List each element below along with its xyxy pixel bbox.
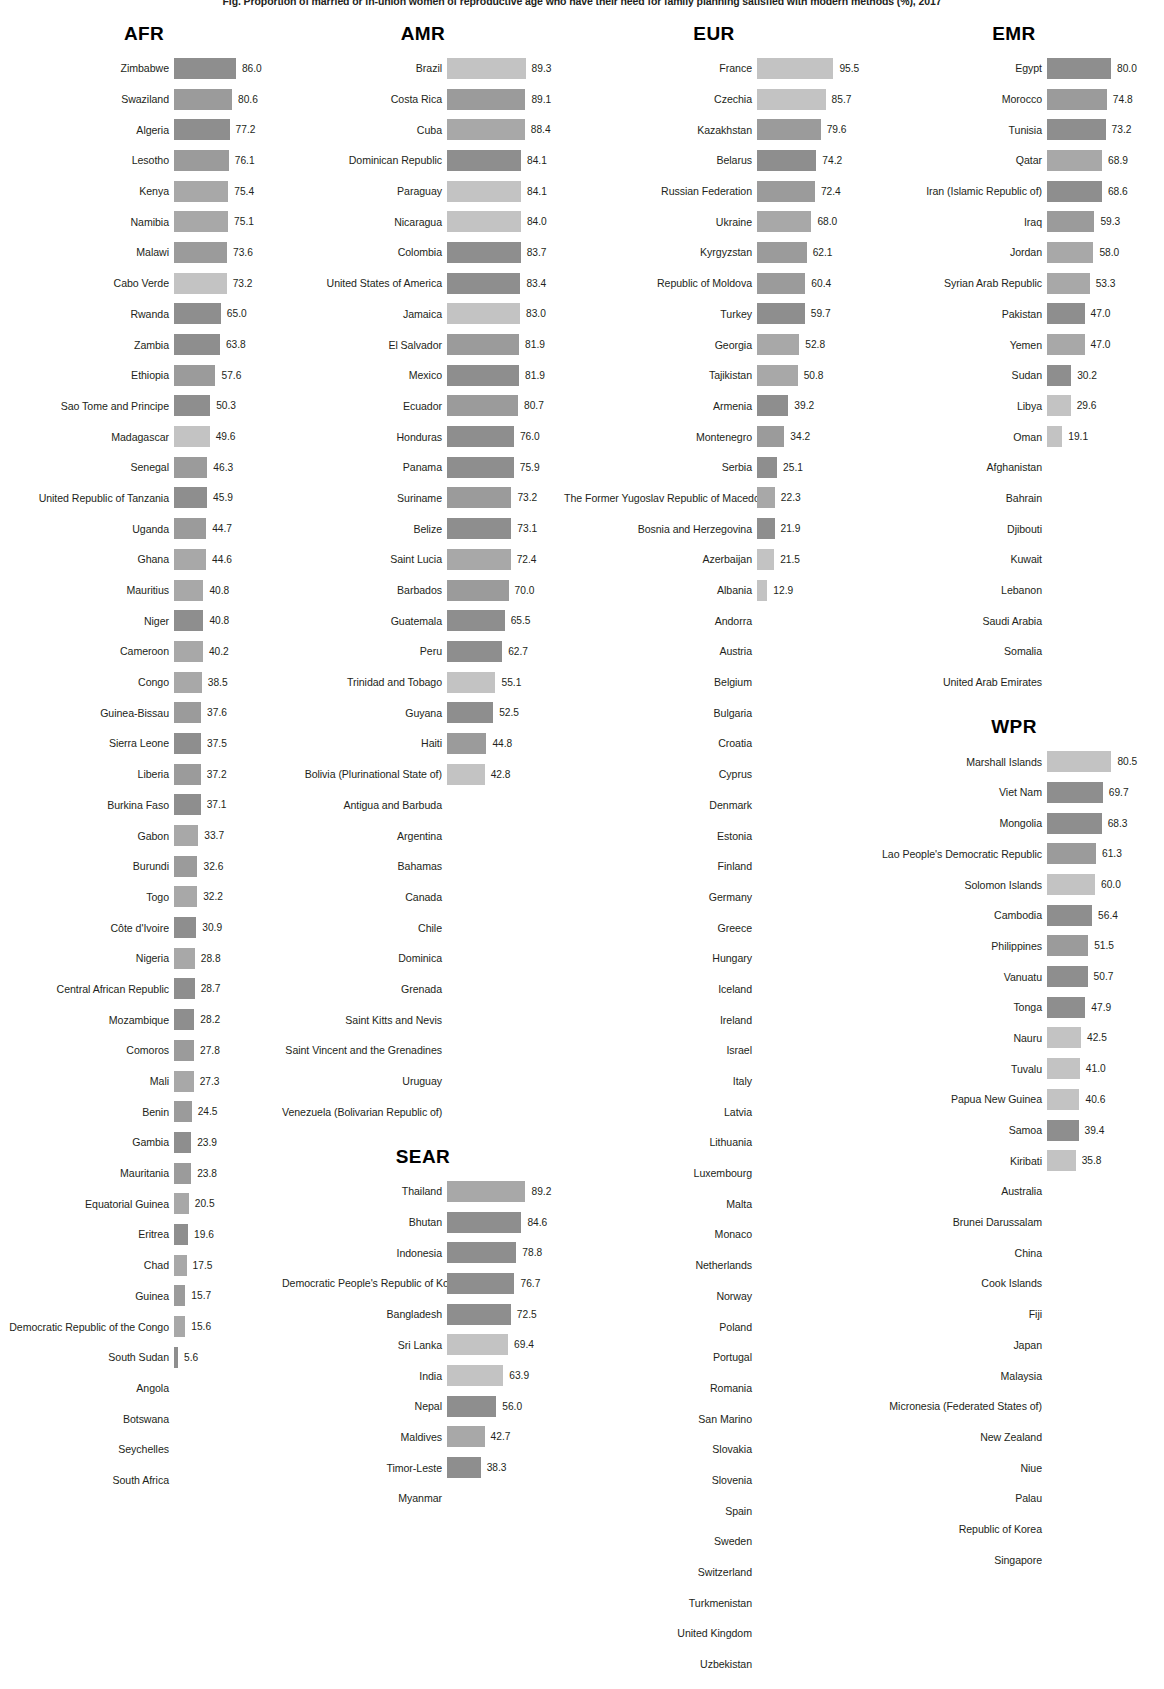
bar-value: 80.5 bbox=[1111, 756, 1137, 767]
bar-value: 76.7 bbox=[514, 1278, 540, 1289]
bar-container: 32.2 bbox=[174, 882, 282, 913]
bar-container: 37.2 bbox=[174, 759, 282, 790]
bar-row: Tonga47.9 bbox=[864, 992, 1164, 1023]
bar-row: Somalia bbox=[864, 636, 1164, 667]
bar bbox=[174, 1101, 192, 1122]
bar-list-afr: Zimbabwe86.0Swaziland80.6Algeria77.2Leso… bbox=[6, 53, 282, 1495]
bar bbox=[1047, 935, 1088, 956]
country-label: Dominican Republic bbox=[282, 154, 447, 166]
bar-row: Micronesia (Federated States of) bbox=[864, 1391, 1164, 1422]
bar bbox=[447, 1365, 503, 1386]
country-label: South Africa bbox=[6, 1474, 174, 1486]
bar-row: Gabon33.7 bbox=[6, 820, 282, 851]
bar-row: Lithuania bbox=[564, 1127, 864, 1158]
bar-container: 83.7 bbox=[447, 237, 564, 268]
bar-row: Indonesia78.8 bbox=[282, 1237, 564, 1268]
bar-row: Sweden bbox=[564, 1526, 864, 1557]
country-label: Serbia bbox=[564, 461, 757, 473]
country-label: Argentina bbox=[282, 830, 447, 842]
bar-list-amr: Brazil89.3Costa Rica89.1Cuba88.4Dominica… bbox=[282, 53, 564, 1127]
bar bbox=[1047, 365, 1071, 386]
country-label: Sao Tome and Principe bbox=[6, 400, 174, 412]
country-label: Viet Nam bbox=[864, 786, 1047, 798]
bar-row: Sierra Leone37.5 bbox=[6, 728, 282, 759]
bar bbox=[174, 150, 229, 171]
bar-value: 74.2 bbox=[816, 155, 842, 166]
bar-value: 55.1 bbox=[495, 677, 521, 688]
country-label: Israel bbox=[564, 1044, 757, 1056]
country-label: Niger bbox=[6, 615, 174, 627]
country-label: Lithuania bbox=[564, 1136, 757, 1148]
country-label: Botswana bbox=[6, 1413, 174, 1425]
bar-value: 44.7 bbox=[206, 523, 232, 534]
bar bbox=[174, 1071, 194, 1092]
country-label: Thailand bbox=[282, 1185, 447, 1197]
bar-value: 81.9 bbox=[519, 339, 545, 350]
bar-container: 81.9 bbox=[447, 329, 564, 360]
bar bbox=[174, 917, 196, 938]
bar-row: Tunisia73.2 bbox=[864, 114, 1164, 145]
country-label: El Salvador bbox=[282, 339, 447, 351]
bar-value: 15.7 bbox=[185, 1290, 211, 1301]
bar-container: 34.2 bbox=[757, 421, 864, 452]
bar-container: 29.6 bbox=[1047, 391, 1164, 422]
bar-row: Belgium bbox=[564, 667, 864, 698]
bar-row: Cook Islands bbox=[864, 1268, 1164, 1299]
bar-container: 60.4 bbox=[757, 268, 864, 299]
country-label: Austria bbox=[564, 645, 757, 657]
bar-row: Pakistan47.0 bbox=[864, 299, 1164, 330]
bar-value: 72.5 bbox=[511, 1309, 537, 1320]
bar-row: China bbox=[864, 1237, 1164, 1268]
country-label: Central African Republic bbox=[6, 983, 174, 995]
bar-container: 32.6 bbox=[174, 851, 282, 882]
bar-row: Russian Federation72.4 bbox=[564, 176, 864, 207]
bar-value: 51.5 bbox=[1088, 940, 1114, 951]
bar bbox=[757, 580, 767, 601]
bar bbox=[174, 119, 230, 140]
country-label: Sierra Leone bbox=[6, 737, 174, 749]
bar-value: 68.9 bbox=[1102, 155, 1128, 166]
country-label: Germany bbox=[564, 891, 757, 903]
bar bbox=[447, 457, 514, 478]
country-label: Marshall Islands bbox=[864, 756, 1047, 768]
country-label: Ethiopia bbox=[6, 369, 174, 381]
bar bbox=[1047, 334, 1085, 355]
bar-row: Ghana44.6 bbox=[6, 544, 282, 575]
bar-row: Malaysia bbox=[864, 1360, 1164, 1391]
column-emr: EMREgypt80.0Morocco74.8Tunisia73.2Qatar6… bbox=[864, 24, 1164, 1575]
bar-value: 53.3 bbox=[1090, 278, 1116, 289]
country-label: Philippines bbox=[864, 940, 1047, 952]
bar-value: 44.8 bbox=[486, 738, 512, 749]
bar-value: 28.2 bbox=[194, 1014, 220, 1025]
bar bbox=[757, 242, 807, 263]
bar-row: Botswana bbox=[6, 1403, 282, 1434]
bar-row: Saudi Arabia bbox=[864, 605, 1164, 636]
country-label: Romania bbox=[564, 1382, 757, 1394]
bar bbox=[757, 273, 805, 294]
bar-container: 28.2 bbox=[174, 1004, 282, 1035]
country-label: Haiti bbox=[282, 737, 447, 749]
bar bbox=[757, 518, 775, 539]
bar-row: Serbia25.1 bbox=[564, 452, 864, 483]
country-label: Bulgaria bbox=[564, 707, 757, 719]
bar-value: 57.6 bbox=[215, 370, 241, 381]
country-label: Iraq bbox=[864, 216, 1047, 228]
bar-value: 39.2 bbox=[788, 400, 814, 411]
bar-value: 46.3 bbox=[207, 462, 233, 473]
bar-container: 69.4 bbox=[447, 1330, 564, 1361]
bar-row: Marshall Islands80.5 bbox=[864, 746, 1164, 777]
bar-value: 65.5 bbox=[505, 615, 531, 626]
bar-row: Finland bbox=[564, 851, 864, 882]
country-label: Grenada bbox=[282, 983, 447, 995]
bar-row: Lebanon bbox=[864, 575, 1164, 606]
bar-value: 19.6 bbox=[188, 1229, 214, 1240]
bar-container: 50.3 bbox=[174, 391, 282, 422]
country-label: Denmark bbox=[564, 799, 757, 811]
bar bbox=[1047, 58, 1111, 79]
bar-container: 38.3 bbox=[447, 1452, 564, 1483]
bar-value: 40.8 bbox=[203, 585, 229, 596]
bar-row: Paraguay84.1 bbox=[282, 176, 564, 207]
country-label: Belgium bbox=[564, 676, 757, 688]
bar-row: United Republic of Tanzania45.9 bbox=[6, 483, 282, 514]
bar-container: 80.6 bbox=[174, 84, 282, 115]
